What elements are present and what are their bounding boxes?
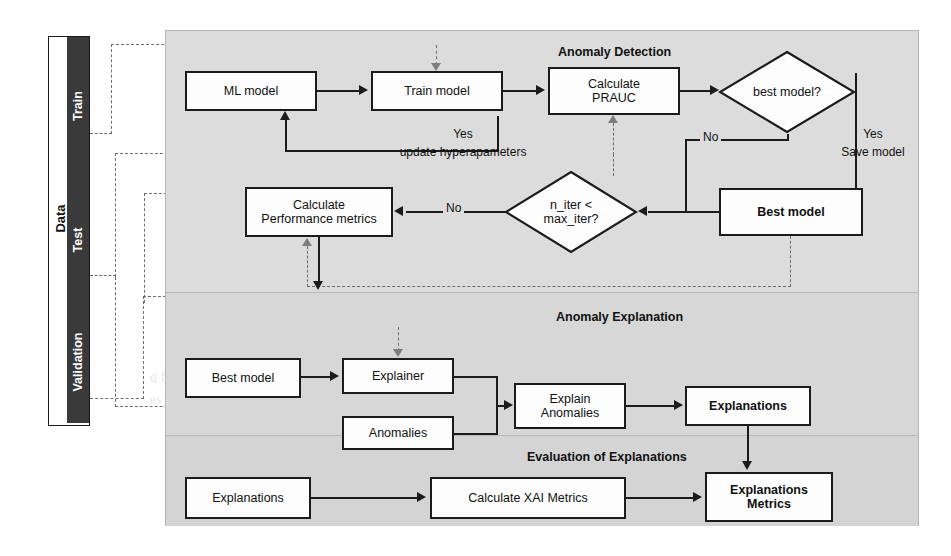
dashed-test-branch-riser [144, 193, 145, 303]
edge-bestmodel-to-explainer [301, 376, 331, 378]
edge-explain-to-explanations [626, 405, 676, 407]
edge-label-yes-save-line1: Yes [828, 127, 918, 141]
node-explanations-metrics[interactable]: Explanations Metrics [705, 472, 833, 522]
node-calculate-prauc-line1: Calculate [588, 77, 640, 91]
dashed-train-to-train-model-arrow [431, 63, 441, 71]
decision-n-iter-line1: n_iter < [550, 198, 592, 212]
data-split-test: Test [71, 195, 85, 285]
edge-xai-to-metrics-arrow [693, 492, 702, 502]
decision-n-iter[interactable]: n_iter < max_iter? [504, 170, 638, 254]
dashed-train-riser [111, 44, 112, 134]
edge-perf-metrics-down [318, 237, 320, 283]
node-calculate-prauc[interactable]: Calculate PRAUC [548, 67, 680, 115]
decision-n-iter-line2: max_iter? [544, 212, 599, 226]
edge-best-model-no-drop [685, 139, 687, 211]
node-calculate-prauc-line2: PRAUC [592, 91, 636, 105]
edge-merge-to-explain-arrow [504, 400, 513, 410]
node-best-model-explain[interactable]: Best model [185, 358, 301, 398]
data-split-validation: Validation [71, 317, 85, 407]
dashed-bestmodel-to-explainer [398, 327, 399, 351]
node-train-model[interactable]: Train model [371, 71, 503, 111]
edge-train-to-prauc-arrow [536, 85, 545, 95]
edge-explanations-to-xai [311, 497, 419, 499]
figure-canvas: a a a t l concrete a an el e n a ale to … [0, 0, 951, 556]
dashed-test-to-prauc [613, 154, 614, 176]
edge-bestmodel-to-explainer-arrow [330, 371, 339, 381]
edge-explanations-to-xai-arrow [417, 492, 426, 502]
section-title-anomaly-explanation: Anomaly Explanation [556, 310, 683, 324]
node-anomalies[interactable]: Anomalies [342, 416, 454, 450]
edge-label-no-n-iter: No [443, 201, 464, 215]
dashed-test-riser [115, 153, 116, 277]
section-title-evaluation-of-explanations: Evaluation of Explanations [527, 450, 687, 464]
decision-best-model[interactable]: best model? [718, 50, 856, 134]
node-calc-perf-line2: Performance metrics [261, 212, 376, 226]
node-explanations[interactable]: Explanations [685, 386, 811, 426]
dashed-validation-stub [90, 398, 144, 399]
dashed-best-model-drop [790, 236, 791, 287]
edge-explanations-down [747, 426, 749, 464]
node-explanations-input[interactable]: Explanations [185, 477, 311, 519]
edge-prauc-to-best-model [680, 90, 712, 92]
node-explanations-metrics-line2: Metrics [747, 497, 791, 511]
data-sidebar-title: Data [53, 184, 68, 254]
dashed-feedback-arrow [302, 238, 312, 246]
dashed-feedback-riser [307, 246, 308, 287]
node-calculate-xai-metrics[interactable]: Calculate XAI Metrics [430, 477, 626, 519]
edge-train-to-prauc [503, 90, 537, 92]
node-calculate-performance-metrics[interactable]: Calculate Performance metrics [245, 187, 393, 237]
edge-explain-to-explanations-arrow [674, 400, 683, 410]
edge-explanations-down-arrow [742, 461, 752, 470]
dashed-test-to-prauc-arrow [608, 115, 618, 123]
decision-n-iter-label: n_iter < max_iter? [504, 170, 638, 254]
edge-n-iter-no-arrow [394, 206, 403, 216]
dashed-validation-lower-riser [115, 277, 116, 407]
edge-label-no-best-model: No [700, 130, 721, 144]
edge-ml-to-train-arrow [359, 85, 368, 95]
edge-label-yes-save-line2: Save model [816, 145, 930, 159]
edge-best-model-to-n-iter-arrow [638, 206, 647, 216]
edge-xai-to-metrics [626, 497, 694, 499]
decision-best-model-label: best model? [718, 50, 856, 134]
node-explain-anomalies-line2: Anomalies [541, 406, 599, 420]
section-title-anomaly-detection: Anomaly Detection [558, 45, 671, 59]
edge-update-hyperparams-riser [285, 119, 287, 151]
edge-perf-metrics-down-arrow [313, 281, 323, 290]
dashed-test-stub [90, 275, 116, 276]
dashed-train-to-train-model [436, 45, 437, 65]
dashed-validation-riser [143, 296, 144, 399]
edge-label-yes-update-line1: Yes [418, 127, 508, 141]
edge-update-hyperparams-arrow [280, 111, 290, 120]
node-best-model[interactable]: Best model [719, 188, 863, 236]
node-explain-anomalies-line1: Explain [550, 392, 591, 406]
node-explainer[interactable]: Explainer [342, 358, 454, 394]
dashed-test-to-prauc-upper [613, 123, 614, 155]
edge-explainer-merge-top [454, 376, 498, 378]
node-explain-anomalies[interactable]: Explain Anomalies [514, 383, 626, 429]
edge-anomalies-merge-bottom [454, 433, 498, 435]
node-calc-perf-line1: Calculate [293, 198, 345, 212]
dashed-train-stub [90, 133, 112, 134]
data-sidebar: Data Train Test Validation [48, 36, 90, 426]
pipeline-panel: Anomaly Detection Anomaly Explanation Ev… [165, 30, 919, 526]
node-ml-model[interactable]: ML model [185, 71, 317, 111]
node-explanations-metrics-line1: Explanations [730, 483, 808, 497]
data-split-bar: Train Test Validation [67, 37, 89, 423]
edge-prauc-to-best-model-arrow [710, 85, 719, 95]
edge-label-yes-update-line2: update hyperapameters [370, 145, 556, 159]
dashed-feedback-run [307, 286, 791, 287]
edge-best-model-to-n-iter [648, 211, 720, 213]
data-split-train: Train [71, 61, 85, 151]
dashed-bestmodel-to-explainer-arrow [393, 349, 403, 357]
edge-ml-to-train [317, 90, 361, 92]
